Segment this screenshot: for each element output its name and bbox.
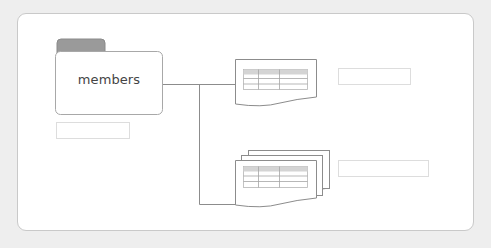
folder-caption-box [56,122,130,139]
connector-lines [163,85,235,205]
single-document-caption-box [338,68,411,85]
document-stack-caption-box [338,160,429,177]
folder-label: members [55,72,163,87]
document-table-icon [236,60,317,106]
diagram-stage: members [0,0,491,248]
document-stack-icon [236,151,330,207]
